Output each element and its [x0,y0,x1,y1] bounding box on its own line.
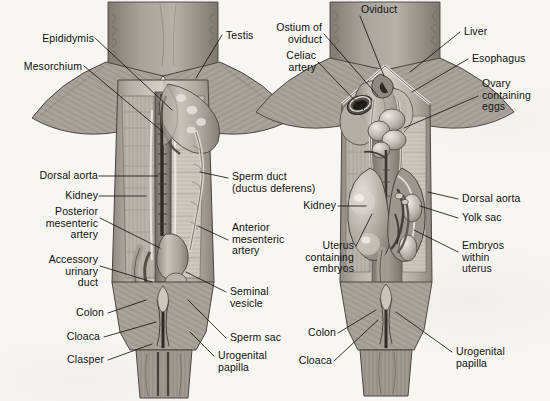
label-oviduct: Oviduct [361,4,423,16]
label-esophagus: Esophagus [472,53,544,65]
label-ovary-containing-eggs: Ovary containing eggs [482,78,548,113]
label-kidney-male: Kidney [22,190,98,202]
label-uterus-containing-embryos: Uterus containing embryos [276,240,354,275]
label-epididymis: Epididymis [6,33,94,45]
label-accessory-urinary-duct: Accessory urinary duct [14,254,98,289]
label-ostium-of-oviduct: Ostium of oviduct [262,22,322,45]
anatomy-figure: Epididymis Mesorchium Testis Dorsal aort… [0,0,550,401]
label-liver: Liver [464,26,512,38]
label-kidney-female: Kidney [282,200,336,212]
label-posterior-mesenteric-artery: Posterior mesenteric artery [14,206,98,241]
label-colon-female: Colon [288,327,336,339]
label-urogenital-papilla-female: Urogenital papilla [456,346,536,369]
label-dorsal-aorta-male: Dorsal aorta [12,170,98,182]
label-cloaca-female: Cloaca [280,355,332,367]
label-dorsal-aorta-female: Dorsal aorta [462,193,546,205]
label-cloaca-male: Cloaca [42,331,100,343]
label-mesorchium: Mesorchium [2,61,82,73]
label-seminal-vesicle: Seminal vesicle [230,286,296,309]
label-clasper: Clasper [44,354,104,366]
label-sperm-duct: Sperm duct (ductus deferens) [232,171,340,194]
label-celiac-artery: Celiac artery [268,50,316,73]
label-colon-male: Colon [50,307,104,319]
label-embryos-within-uterus: Embryos within uterus [462,240,528,275]
label-yolk-sac: Yolk sac [462,212,522,224]
